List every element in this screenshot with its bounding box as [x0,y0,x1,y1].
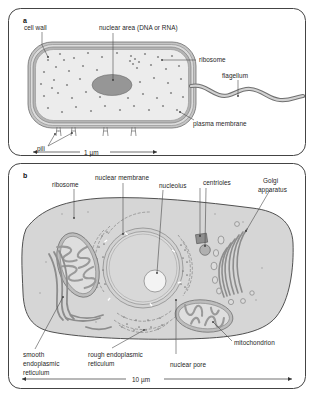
label-golgi-line2: apparatus [258,186,287,194]
label-rough-er-line2: reticulum [88,360,114,367]
label-golgi-line1: Golgi [263,177,278,185]
label-nuclear-area: nuclear area (DNA or RNA) [99,24,178,32]
label-flagellum: flagellum [222,72,248,80]
scale-label-b: 10 µm [132,376,150,384]
figure-text-layer: a b cell wall nuclear area (DNA or RNA) … [0,0,314,397]
label-centrioles: centrioles [203,179,231,186]
label-rough-er-line1: rough endoplasmic [88,351,144,359]
label-ribosome-a: ribosome [199,56,226,63]
label-plasma-membrane: plasma membrane [193,120,247,128]
label-pili: pili [37,145,45,153]
cell-structure-figure: a b cell wall nuclear area (DNA or RNA) … [0,0,314,397]
label-smooth-er-line2: endoplasmic [23,360,60,368]
scale-label-a: 1 µm [84,149,99,157]
panel-a-marker: a [23,17,27,24]
label-cell-wall: cell wall [24,24,47,31]
label-ribosome-b: ribosome [52,181,79,188]
label-smooth-er-line3: reticulum [23,369,49,376]
label-nucleolus: nucleolus [159,182,186,189]
label-nuclear-pore: nuclear pore [170,361,207,369]
label-mitochondrion: mitochondrion [234,339,275,346]
panel-b-marker: b [23,172,27,179]
label-smooth-er-line1: smooth [23,351,45,358]
label-nuclear-membrane: nuclear membrane [95,174,149,181]
